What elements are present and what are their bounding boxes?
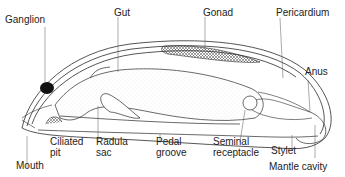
ciliated-pit: [46, 117, 62, 124]
label-radula-sac: Radula sac: [96, 136, 128, 158]
ganglion: [40, 82, 54, 94]
label-ganglion: Ganglion: [5, 14, 45, 25]
label-anus: Anus: [305, 66, 328, 77]
label-pericardium: Pericardium: [276, 7, 329, 18]
label-seminal-receptacle: Seminal receptacle: [213, 136, 259, 158]
label-ciliated-pit: Ciliated pit: [50, 136, 83, 158]
seminal-receptacle: [243, 96, 257, 110]
label-stylet: Stylet: [271, 145, 296, 156]
label-gonad: Gonad: [203, 7, 233, 18]
gonad: [162, 46, 260, 63]
mantle-cavity: [296, 112, 326, 144]
label-gut: Gut: [114, 7, 130, 18]
label-mantle-cavity: Mantle cavity: [269, 161, 327, 172]
gut-region: [55, 69, 263, 121]
label-mouth: Mouth: [16, 160, 44, 171]
label-pedal-groove: Pedal groove: [156, 136, 187, 158]
